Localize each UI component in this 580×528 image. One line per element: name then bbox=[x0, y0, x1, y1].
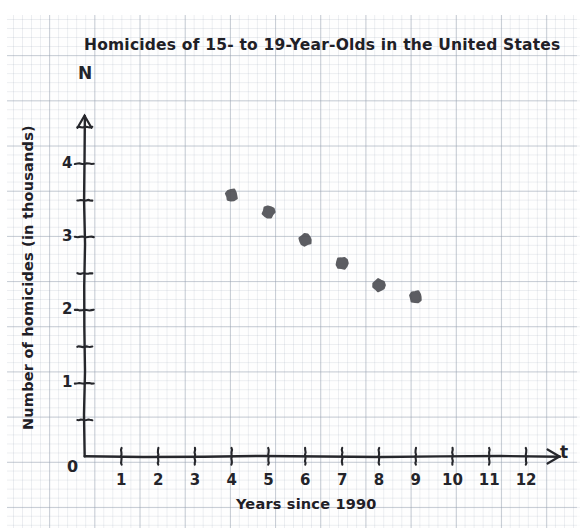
x-tick-label: 6 bbox=[293, 471, 317, 489]
x-tick-mark bbox=[526, 448, 527, 465]
data-point bbox=[410, 291, 420, 302]
x-tick-label: 10 bbox=[441, 471, 465, 489]
x-tick-mark bbox=[268, 448, 269, 465]
y-tick-label: 2 bbox=[51, 300, 73, 318]
data-point bbox=[226, 190, 237, 201]
x-tick-mark bbox=[195, 448, 196, 465]
y-tick-mark-major bbox=[75, 310, 94, 311]
x-tick-mark bbox=[415, 448, 416, 465]
data-point bbox=[373, 279, 384, 291]
x-tick-mark bbox=[379, 448, 380, 465]
y-axis-variable: N bbox=[78, 63, 92, 83]
x-tick-label: 2 bbox=[146, 471, 170, 489]
data-point bbox=[300, 234, 311, 246]
axes bbox=[84, 116, 560, 457]
y-axis-label: Number of homicides (in thousands) bbox=[20, 125, 36, 430]
y-tick-mark-major bbox=[75, 237, 94, 238]
x-tick-label: 1 bbox=[109, 471, 133, 489]
x-tick-mark bbox=[305, 448, 306, 465]
origin-label: 0 bbox=[67, 457, 78, 476]
y-tick-mark-minor bbox=[77, 273, 92, 274]
x-tick-label: 3 bbox=[183, 471, 207, 489]
x-tick-mark bbox=[231, 448, 232, 465]
x-tick-mark bbox=[342, 448, 343, 465]
y-tick-mark-minor bbox=[77, 200, 92, 201]
y-tick-mark-major bbox=[75, 383, 94, 384]
x-tick-mark bbox=[121, 448, 122, 465]
x-tick-label: 12 bbox=[514, 471, 538, 489]
data-markers bbox=[226, 190, 421, 302]
y-tick-mark-major bbox=[75, 163, 94, 164]
x-tick-label: 5 bbox=[257, 471, 281, 489]
x-tick-mark bbox=[158, 448, 159, 465]
y-tick-mark-minor bbox=[77, 420, 92, 421]
y-tick-mark-minor bbox=[77, 346, 92, 347]
x-axis-variable: t bbox=[560, 442, 568, 462]
x-tick-mark bbox=[489, 448, 490, 465]
x-axis-label: Years since 1990 bbox=[236, 496, 377, 512]
x-tick-label: 7 bbox=[330, 471, 354, 489]
y-tick-label: 3 bbox=[51, 227, 73, 245]
chart-title: Homicides of 15- to 19-Year-Olds in the … bbox=[84, 36, 560, 54]
y-tick-label: 1 bbox=[51, 373, 73, 391]
data-point bbox=[263, 206, 275, 217]
x-tick-label: 4 bbox=[220, 471, 244, 489]
x-tick-label: 8 bbox=[367, 471, 391, 489]
y-tick-label: 4 bbox=[51, 154, 73, 172]
x-tick-mark bbox=[452, 448, 453, 465]
x-tick-label: 9 bbox=[404, 471, 428, 489]
tick-marks bbox=[75, 127, 527, 465]
axis-arrows bbox=[78, 116, 560, 464]
data-point bbox=[337, 258, 348, 269]
y-axis-line bbox=[84, 116, 85, 456]
graph-paper-scatter-plot: Homicides of 15- to 19-Year-Olds in the … bbox=[0, 0, 580, 528]
x-tick-label: 11 bbox=[477, 471, 501, 489]
